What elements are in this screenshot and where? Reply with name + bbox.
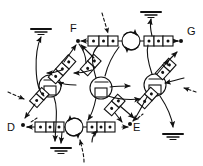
arrow-hubleft-out-sw — [25, 104, 35, 118]
arrow-centerchain-se — [120, 106, 134, 118]
arrow-dashed-left-in — [8, 92, 24, 99]
node-label-e: E — [133, 122, 140, 133]
arrow-dashed-bottom-in — [80, 140, 84, 162]
arrow-dashed-near-e — [138, 114, 143, 118]
arrow-hubright-to-topbus — [147, 45, 152, 74]
arrow-dashed-right-in — [184, 88, 196, 92]
ground-symbol-top-right — [141, 12, 161, 18]
terminal-dot-f[interactable] — [76, 39, 80, 43]
arrow-bottombus-to-ground — [61, 132, 62, 143]
node-label-f: F — [70, 23, 77, 34]
arrow-topbus-to-ground — [150, 19, 152, 36]
ground-symbol-right — [163, 134, 183, 140]
ground-symbol-bottom-left — [51, 148, 71, 154]
arrow-hubcenter-down — [88, 98, 96, 120]
arrow-hubleft-to-ground-bottom — [54, 97, 56, 141]
arrow-into-hubright — [165, 78, 184, 83]
terminal-dot-g[interactable] — [179, 39, 183, 43]
arrow-dashed-top-in — [102, 13, 108, 33]
terminal-dot-d[interactable] — [21, 123, 25, 127]
rotation-symbol-bottom — [65, 118, 83, 136]
terminal-dot-e[interactable] — [128, 122, 132, 126]
arrow-centerchain-to-e — [115, 113, 122, 122]
arrow-topbus-to-hubcenter — [105, 47, 119, 76]
arrow-dashed-near-d — [31, 118, 37, 122]
arrow-hubright-to-ground — [160, 96, 173, 127]
arrow-up-into-bottombus — [92, 131, 97, 142]
ground-symbol-upper-left — [31, 29, 51, 35]
element-chain-northeast — [155, 58, 176, 80]
schematic-diagram — [0, 0, 203, 166]
diagram-canvas: F G D E — [0, 0, 203, 166]
arrow-hubcenter-right — [110, 86, 130, 87]
node-label-g: G — [187, 26, 196, 37]
element-chain-southeast — [137, 87, 158, 109]
node-label-d: D — [7, 122, 15, 133]
rotation-symbol-top — [122, 32, 140, 50]
